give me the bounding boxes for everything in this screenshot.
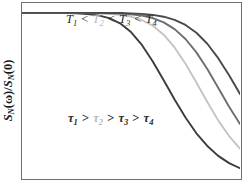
plot-canvas (22, 3, 240, 178)
y-axis-label-zero: (0) (2, 59, 16, 74)
curve-group (22, 13, 240, 168)
y-axis-label-sub1: N (7, 108, 17, 114)
y-axis-label-s2: S (2, 80, 16, 87)
y-axis-label: SN(ω)/SN(0) (2, 59, 17, 121)
y-axis-label-omega: (ω) (2, 90, 16, 107)
curve-tau_1 (22, 13, 240, 168)
curve-tau_3 (22, 13, 240, 124)
y-axis-label-sub2: N (7, 74, 17, 80)
plot-frame: T1 < T2 < T3 < T4 τ1 > τ2 > τ3 > τ4 (21, 2, 242, 180)
figure: SN(ω)/SN(0) T1 < T2 < T3 < T4 τ1 > τ2 > … (0, 0, 250, 196)
y-axis-label-container: SN(ω)/SN(0) (0, 0, 19, 180)
curve-tau_4 (22, 13, 240, 94)
y-axis-label-s1: S (2, 114, 16, 121)
